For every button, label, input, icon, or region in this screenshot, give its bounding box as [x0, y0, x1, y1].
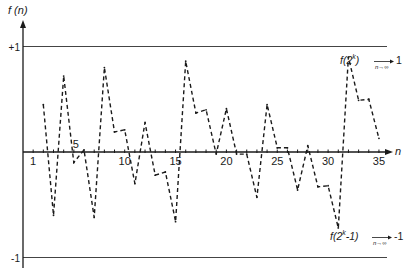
data-point	[134, 183, 136, 185]
upper-limit-annotation: f(2k)n→∞1	[340, 53, 402, 70]
limit-arrowhead-icon	[388, 236, 392, 240]
data-point	[226, 108, 228, 110]
data-point	[103, 67, 105, 69]
data-point	[73, 162, 75, 164]
data-point	[327, 185, 329, 187]
data-point	[378, 137, 380, 139]
data-point	[185, 60, 187, 62]
annotation-text: f(2k-1)	[330, 229, 359, 242]
data-point	[368, 98, 370, 100]
data-point	[114, 131, 116, 133]
lower-limit-annotation: f(2k-1)n→∞-1	[330, 229, 403, 246]
series-line	[43, 57, 379, 228]
data-point	[256, 196, 258, 198]
data-point	[358, 99, 360, 101]
data-point	[42, 104, 44, 106]
series-layer	[42, 56, 379, 229]
data-point	[266, 104, 268, 106]
limit-subscript: n→∞	[373, 240, 387, 246]
y-axis-arrow-icon	[20, 20, 26, 28]
data-point	[63, 75, 65, 77]
x-tick-label: 35	[373, 155, 385, 167]
annotation-text: f(2k)	[340, 53, 359, 66]
y-tick-labels: +1-1	[9, 42, 21, 264]
data-point	[195, 112, 197, 114]
data-point	[53, 214, 55, 216]
x-tick-label: 20	[220, 155, 232, 167]
data-point	[215, 153, 217, 155]
x-axis-arrow-icon	[385, 149, 393, 155]
data-point	[236, 153, 238, 155]
limit-subscript: n→∞	[375, 64, 389, 70]
x-axis-label: n	[395, 145, 401, 157]
data-point	[93, 217, 95, 219]
limit-value: 1	[396, 54, 402, 66]
limit-arrowhead-icon	[390, 60, 394, 64]
data-point	[276, 147, 278, 149]
data-point	[287, 147, 289, 149]
data-point	[144, 122, 146, 124]
data-point	[317, 186, 319, 188]
data-point	[205, 109, 207, 111]
data-point	[124, 129, 126, 131]
data-point	[246, 153, 248, 155]
x-tick-label: 1	[30, 155, 36, 167]
data-point	[175, 221, 177, 223]
chart: 15101520253035 +1-1 f (n) n f(2k)n→∞1f(2…	[0, 0, 416, 272]
data-point	[154, 174, 156, 176]
data-point	[307, 145, 309, 147]
data-point	[83, 149, 85, 151]
x-tick-label: 30	[322, 155, 334, 167]
limit-value: -1	[394, 230, 403, 242]
data-point	[297, 189, 299, 191]
y-tick-label: +1	[9, 42, 21, 53]
x-tick-label: 10	[119, 155, 131, 167]
y-tick-label: -1	[11, 253, 20, 264]
data-point	[164, 171, 166, 173]
y-axis-label: f (n)	[8, 4, 28, 16]
x-tick-label: 25	[271, 155, 283, 167]
annotations: f(2k)n→∞1f(2k-1)n→∞-1	[330, 53, 403, 246]
x-tick-label: 5	[73, 138, 79, 150]
